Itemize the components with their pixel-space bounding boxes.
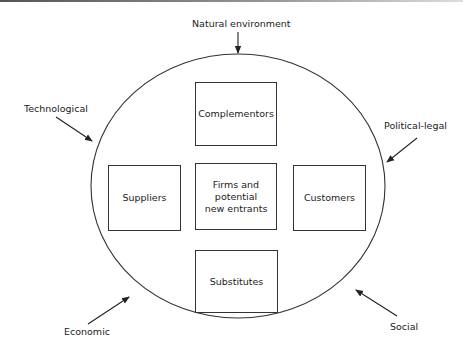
arrow-economic <box>88 297 129 324</box>
box-complementors-label: Complementors <box>198 108 274 120</box>
box-substitutes: Substitutes <box>195 250 278 313</box>
box-firms-label: Firms and potential new entrants <box>205 179 268 215</box>
box-suppliers: Suppliers <box>108 165 181 231</box>
arrow-social <box>356 290 397 316</box>
label-economic: Economic <box>64 326 110 338</box>
box-complementors: Complementors <box>195 82 277 146</box>
label-technological: Technological <box>24 103 88 115</box>
label-social: Social <box>390 321 418 333</box>
box-suppliers-label: Suppliers <box>122 192 166 204</box>
box-substitutes-label: Substitutes <box>210 276 264 288</box>
box-customers-label: Customers <box>304 192 355 204</box>
label-natural-environment: Natural environment <box>192 18 291 30</box>
arrow-political-legal <box>387 138 417 162</box>
arrow-technological <box>56 117 92 141</box>
label-political-legal: Political-legal <box>384 120 447 132</box>
box-customers: Customers <box>293 165 366 231</box>
box-firms-and-potential-new-entrants: Firms and potential new entrants <box>195 163 277 230</box>
